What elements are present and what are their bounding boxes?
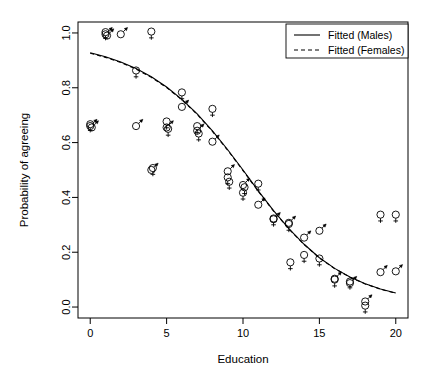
mars-symbol-marker: [362, 295, 372, 305]
venus-symbol-marker: [194, 123, 201, 135]
venus-symbol-marker: [377, 211, 384, 223]
venus-symbol-marker: [287, 259, 294, 271]
x-axis-tick-label: 15: [313, 327, 325, 339]
marker-circle: [209, 105, 216, 112]
marker-circle: [239, 181, 246, 188]
x-axis-tick-label: 5: [164, 327, 170, 339]
marker-circle: [301, 234, 308, 241]
marker-circle: [377, 211, 384, 218]
x-axis-tick-label: 20: [390, 327, 402, 339]
x-axis-tick-label: 0: [87, 327, 93, 339]
marker-circle: [117, 31, 124, 38]
y-axis-tick-label: 0.0: [60, 299, 72, 314]
marker-circle: [178, 89, 185, 96]
x-axis-tick-label: 10: [237, 327, 249, 339]
marker-circle: [209, 138, 216, 145]
venus-symbol-marker: [178, 89, 185, 101]
marker-circle: [148, 28, 155, 35]
y-axis-tick-label: 0.8: [60, 80, 72, 95]
marker-circle: [165, 125, 172, 132]
marker-circle: [362, 298, 369, 305]
venus-symbol-marker: [392, 211, 399, 223]
legend-label: Fitted (Females): [328, 44, 404, 56]
x-axis-title: Education: [217, 353, 268, 365]
marker-circle: [392, 268, 399, 275]
y-axis-tick-label: 0.6: [60, 135, 72, 150]
mars-symbol-marker: [224, 165, 234, 175]
venus-symbol-marker: [224, 174, 231, 186]
y-axis-tick-label: 0.2: [60, 245, 72, 260]
venus-symbol-marker: [255, 180, 262, 192]
marker-circle: [362, 302, 369, 309]
venus-symbol-marker: [148, 28, 155, 40]
legend-label: Fitted (Males): [328, 29, 392, 41]
marker-circle: [316, 255, 323, 262]
mars-symbol-marker: [392, 265, 402, 275]
marker-circle: [377, 269, 384, 276]
venus-symbol-marker: [209, 105, 216, 117]
fitted-curve-fitted-females: [90, 53, 396, 293]
series-males: [87, 27, 403, 305]
marker-circle: [255, 180, 262, 187]
marker-circle: [346, 278, 353, 285]
marker-circle: [149, 164, 156, 171]
marker-circle: [301, 251, 308, 258]
fitted-curve-fitted-males: [90, 53, 396, 293]
marker-circle: [132, 122, 139, 129]
marker-circle: [255, 201, 262, 208]
marker-circle: [316, 227, 323, 234]
y-axis-tick-label: 1.0: [60, 25, 72, 40]
venus-symbol-marker: [195, 130, 202, 142]
venus-symbol-marker: [316, 255, 323, 267]
chart-figure: 051015200.00.20.40.60.81.0EducationProba…: [0, 0, 432, 385]
marker-circle: [287, 259, 294, 266]
marker-circle: [392, 211, 399, 218]
venus-symbol-marker: [301, 251, 308, 263]
marker-circle: [178, 103, 185, 110]
mars-symbol-marker: [377, 265, 387, 275]
mars-symbol-marker: [316, 224, 326, 234]
mars-symbol-marker: [301, 231, 311, 241]
marker-circle: [148, 166, 155, 173]
mars-symbol-marker: [255, 198, 265, 208]
y-axis-title: Probability of agreeing: [18, 113, 30, 227]
mars-symbol-marker: [117, 27, 127, 37]
mars-symbol-marker: [132, 119, 142, 129]
marker-circle: [226, 178, 233, 185]
scatter-plot-canvas: 051015200.00.20.40.60.81.0EducationProba…: [0, 0, 432, 385]
marker-circle: [194, 123, 201, 130]
y-axis-tick-label: 0.4: [60, 190, 72, 205]
mars-symbol-marker: [209, 135, 219, 145]
